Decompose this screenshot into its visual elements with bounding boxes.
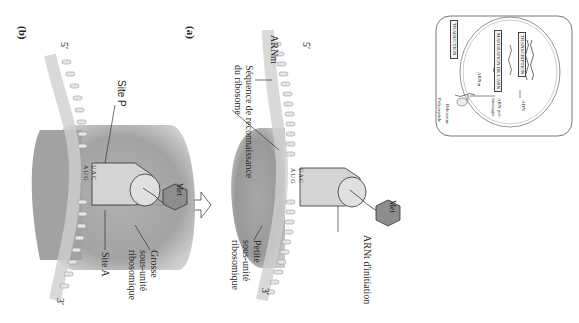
met-label-a: Met [387,200,398,213]
inset-adn: ADN [520,100,526,111]
panel-b-five-prime: 5′ [59,42,70,49]
anticodon-a: U A C [297,168,304,183]
site-a-label: Site A [100,252,111,277]
trna-end-b [130,174,160,206]
diagram-graphics [0,0,579,323]
anticodon-b: U A C [90,165,97,180]
panel-b-three-prime: 3′ [55,298,66,305]
site-p-label: Site P [116,80,127,107]
small-subunit-label: Petite sous-unité ribosomique [230,240,263,290]
panel-b-graphics [32,55,195,300]
inset-polypeptide: Polypeptide [436,98,442,122]
panel-a-five-prime: 5′ [301,42,312,49]
inset-pre-arnm: ARN pré- messager [490,98,502,118]
panel-a-label: (a) [185,26,196,39]
large-subunit-label: Grosse sous-unité ribosomique [127,250,160,300]
initiator-trna-label: ARNt d'initiation [362,235,373,304]
inset-ribosome: Ribosome [444,104,450,124]
transition-arrow [194,192,211,218]
inset-maturation: MATURATION DE L'ARN [494,30,502,92]
met-label-b: Met [174,183,185,196]
mrna-label: ARNm [269,35,280,64]
inset-transcription: TRANSCRIPTION [518,32,526,77]
codon-a: A U G [289,168,296,184]
inset-arnm: ARNm [476,72,482,86]
recognition-sequence-label: Séquence de reconnaissance du ribosome [233,65,255,178]
panel-b-label: (b) [17,26,28,39]
inset-traduction: TRADUCTION [450,20,458,59]
codon-b: A U G [82,165,89,181]
